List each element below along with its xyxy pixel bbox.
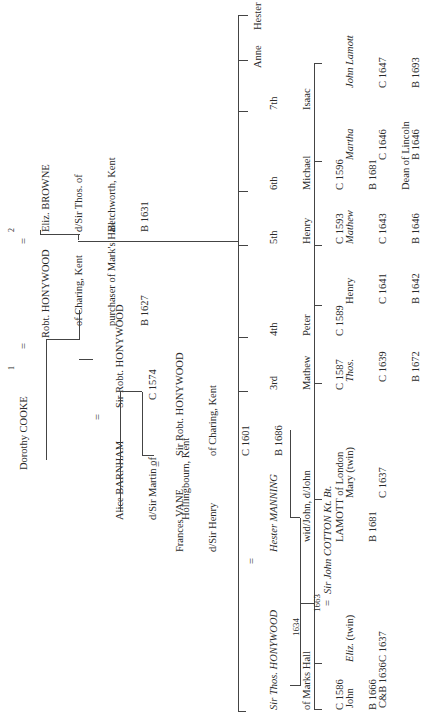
connector-line bbox=[314, 245, 322, 246]
child-date: C 1637 bbox=[377, 615, 388, 662]
connector-line bbox=[314, 709, 322, 710]
wife1-number: 1 bbox=[8, 366, 16, 370]
child-name: Thos. bbox=[344, 351, 355, 382]
child-name: Martha bbox=[344, 129, 355, 161]
frances-vane: Frances VANE d/Sir Henry bbox=[152, 489, 240, 552]
child-name: Eliz. (twin) bbox=[344, 615, 355, 662]
wife1-name: Dorothy COOKE bbox=[18, 396, 29, 470]
child-name: Henry bbox=[344, 273, 355, 304]
connector-line bbox=[120, 392, 121, 512]
sir-thos-title: Sir Thos. bbox=[268, 672, 279, 710]
connector-line bbox=[40, 230, 41, 235]
child-date: C 1641 bbox=[377, 273, 388, 304]
wife2-line: Betchworth, Kent bbox=[106, 157, 117, 232]
sibling-ordinal: 6th bbox=[268, 121, 279, 190]
wife2-line: B 1631 bbox=[139, 157, 150, 232]
child-martha: Martha C 1646 B 1646 bbox=[322, 129, 424, 161]
connector-line bbox=[238, 337, 248, 338]
connector-line bbox=[290, 517, 300, 518]
sibling-name: Michael bbox=[301, 121, 312, 190]
sir-john-cotton: Sir John COTTON Kt. Bt. bbox=[322, 486, 333, 594]
sibling-isaac: 7th Isaac bbox=[246, 88, 334, 110]
child-thos: Thos. C 1639 B 1672 bbox=[322, 351, 424, 382]
connector-line bbox=[238, 111, 248, 112]
child-mary: Mary (twin) C 1637 bbox=[322, 447, 410, 498]
connector-line bbox=[314, 663, 322, 664]
sir-robt-line: of Charing, Kent bbox=[207, 352, 218, 456]
hester-name: Hester MANNING bbox=[268, 452, 279, 552]
connector-line bbox=[40, 234, 80, 235]
connector-line bbox=[238, 245, 248, 246]
child-name-text: Eliz. bbox=[344, 643, 355, 662]
connector-line bbox=[238, 711, 246, 712]
sibling-ordinal: 4th bbox=[268, 305, 279, 336]
child-name: John Lamott bbox=[344, 35, 355, 88]
connector-line bbox=[78, 241, 238, 242]
child-john-lamott: John Lamott C 1647 B 1693 bbox=[322, 35, 424, 88]
wife2-line: d/Sir Thos. of bbox=[73, 157, 84, 232]
child-date: B 1672 bbox=[410, 351, 421, 382]
connector-line bbox=[60, 339, 80, 340]
child-john: John C&B 1636 bbox=[322, 662, 410, 708]
sibling-name: Isaac bbox=[301, 88, 312, 110]
sir-thos-name: Sir Thos. HONYWOOD bbox=[268, 610, 279, 710]
sibling-date: C 1589 bbox=[334, 305, 345, 336]
child-date: B 1646 bbox=[410, 129, 421, 161]
child-twin-label: (twin) bbox=[344, 615, 355, 641]
connector-line bbox=[78, 235, 79, 240]
child-name: Mathew bbox=[344, 210, 355, 244]
sibling-name: Peter bbox=[301, 305, 312, 336]
connector-line bbox=[314, 305, 322, 306]
connector-line bbox=[314, 63, 322, 64]
marriage-equals-3: = bbox=[92, 414, 103, 420]
sibling-hester: Hester bbox=[252, 3, 263, 30]
connector-line bbox=[79, 359, 93, 360]
connector-line bbox=[238, 15, 248, 16]
husband-line: Robt. HONYWOOD bbox=[40, 222, 51, 338]
child-date: C&B 1636 bbox=[377, 662, 388, 708]
frances-line: Frances VANE bbox=[174, 489, 185, 552]
sir-thos-surname: HONYWOOD bbox=[268, 610, 279, 670]
connector-line bbox=[314, 161, 322, 162]
wife2-number: 2 bbox=[8, 228, 16, 232]
child-date: C 1637 bbox=[377, 447, 388, 498]
child-henry: Henry C 1641 B 1642 bbox=[322, 273, 424, 304]
child-date: C 1646 bbox=[377, 129, 388, 161]
sibling-name: Mathew bbox=[301, 356, 312, 390]
sir-robt-line: Sir Robt. HONYWOOD bbox=[174, 352, 185, 456]
sibling-ordinal: 7th bbox=[268, 88, 279, 110]
marriage-equals-1: = bbox=[18, 343, 29, 349]
child-date: B 1642 bbox=[410, 273, 421, 304]
marriage-equals-4: = bbox=[152, 461, 163, 467]
child-date: C 1643 bbox=[377, 210, 388, 244]
connector-line bbox=[120, 391, 142, 392]
hester-line: wid/John, d/John bbox=[301, 452, 312, 552]
child-date: C 1647 bbox=[377, 35, 388, 88]
child-date: B 1646 bbox=[410, 210, 421, 244]
sibling-ordinal: 5th bbox=[268, 213, 279, 244]
sibling-peter: 4th Peter C 1589 bbox=[246, 305, 367, 336]
child-eliz: Eliz. (twin) C 1637 bbox=[322, 615, 410, 662]
child-date: B 1693 bbox=[410, 35, 421, 88]
sibling-name: Henry bbox=[301, 213, 312, 244]
connector-line bbox=[300, 518, 301, 686]
connector-line bbox=[238, 60, 248, 61]
connector-line bbox=[238, 391, 248, 392]
marriage-equals-2: = bbox=[18, 238, 29, 244]
marriage-equals-5: = bbox=[246, 558, 257, 564]
connector-line bbox=[46, 340, 47, 460]
sibling-anne: Anne bbox=[252, 45, 263, 68]
connector-line bbox=[290, 685, 300, 686]
child-mathew: Mathew C 1643 B 1646 bbox=[322, 210, 424, 244]
marriage-year-1634: 1634 bbox=[291, 618, 302, 636]
marriage-equals-6: = bbox=[322, 600, 333, 606]
connector-line bbox=[142, 392, 143, 456]
siblings-bar bbox=[238, 16, 239, 712]
marriage-year-1663: 1663 bbox=[312, 594, 323, 612]
connector-line bbox=[238, 191, 248, 192]
child-name: Mary (twin) bbox=[344, 447, 355, 498]
child-name: John bbox=[344, 662, 355, 708]
connector-line bbox=[79, 310, 80, 340]
connector-line bbox=[314, 499, 322, 500]
